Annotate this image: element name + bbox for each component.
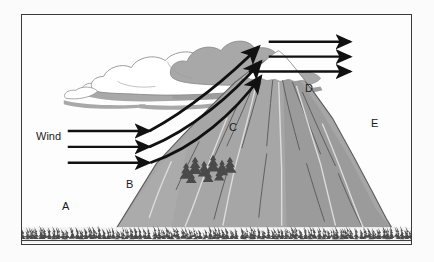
label-wind: Wind [36,131,61,142]
label-b: B [126,179,133,190]
label-d: D [305,83,313,94]
diagram-frame: Wind A B C D E [21,14,412,245]
label-e: E [371,118,378,129]
figure-stage: Wind A B C D E [0,0,434,262]
label-a: A [62,201,69,212]
label-c: C [229,122,237,133]
diagram-canvas [22,15,411,244]
foreground-forest [22,225,411,243]
